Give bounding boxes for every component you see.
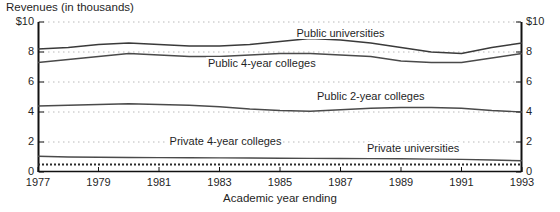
y-tick-label-right: 8 xyxy=(526,46,560,57)
x-axis-ticks: 197719791981198319851987198919911993 xyxy=(0,176,560,192)
y-tick-label-right: 6 xyxy=(526,76,560,87)
y-tick-label-right: 2 xyxy=(526,136,560,147)
x-tick-label: 1981 xyxy=(147,176,171,188)
y-tick-label-left: 8 xyxy=(0,46,34,57)
y-axis-left-ticks: $1086420 xyxy=(0,22,34,172)
series-annotation: Private 4-year colleges xyxy=(168,135,284,147)
series-line-2 xyxy=(38,104,522,112)
y-tick-label-left: 2 xyxy=(0,136,34,147)
series-line-3 xyxy=(38,156,522,161)
x-tick-label: 1979 xyxy=(86,176,110,188)
series-annotation: Public universities xyxy=(294,27,386,39)
x-tick-label: 1991 xyxy=(449,176,473,188)
x-tick-label: 1989 xyxy=(389,176,413,188)
series-annotation: Private universities xyxy=(365,142,461,154)
y-axis-right-ticks: $1086420 xyxy=(526,22,560,172)
x-tick-label: 1977 xyxy=(26,176,50,188)
y-tick-label-right: 4 xyxy=(526,106,560,117)
x-axis-label: Academic year ending xyxy=(0,192,560,205)
series-line-0 xyxy=(38,39,522,54)
y-tick-label-right: $10 xyxy=(526,16,560,27)
y-tick-label-left: 4 xyxy=(0,106,34,117)
revenues-line-chart: Revenues (in thousands) $1086420 $108642… xyxy=(0,0,560,212)
y-tick-label-left: $10 xyxy=(0,16,34,27)
chart-title: Revenues (in thousands) xyxy=(6,1,134,14)
y-tick-label-left: 6 xyxy=(0,76,34,87)
series-annotation: Public 4-year colleges xyxy=(206,57,318,69)
x-tick-label: 1983 xyxy=(207,176,231,188)
series-annotation: Public 2-year colleges xyxy=(315,90,427,102)
x-tick-label: 1987 xyxy=(328,176,352,188)
x-tick-label: 1993 xyxy=(510,176,534,188)
x-tick-label: 1985 xyxy=(268,176,292,188)
